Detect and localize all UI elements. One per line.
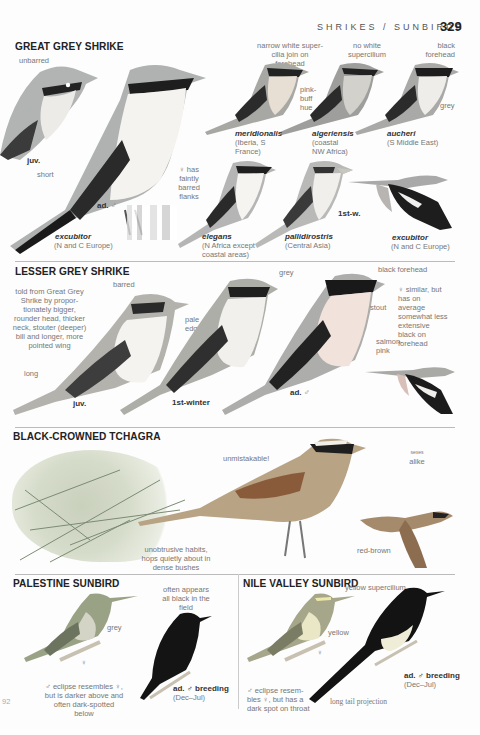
label-lgs-ad-male: ad. ♂ — [290, 388, 310, 397]
note-palestine-eclipse: ♂ eclipse resembles ♀, but is darker abo… — [43, 682, 125, 718]
lesser-grey-shrike-flight-illustration — [365, 362, 465, 417]
section-title-great-grey-shrike: GREAT GREY SHRIKE — [15, 40, 124, 52]
range-pallidirostris: (Central Asia) — [285, 241, 330, 250]
note-red-brown: red-brown — [357, 546, 391, 555]
margin-reference: 92 — [2, 697, 10, 706]
race-algeriensis: algeriensis — [312, 129, 354, 138]
fence-post — [127, 205, 177, 240]
palestine-sunbird-female-illustration — [20, 592, 120, 662]
race-elegans: elegans — [202, 232, 232, 241]
race-pallidirostris: pallidirostris — [285, 232, 333, 241]
note-long-tail: long tail projection — [330, 697, 387, 706]
divider-2 — [15, 427, 455, 428]
nile-breeding-months: (Dec–Jul) — [404, 680, 436, 689]
label-female: ♀ — [81, 658, 87, 667]
male-symbol: ♂ — [304, 388, 310, 397]
note-alike: alike — [403, 457, 431, 466]
race-aucheri: aucheri — [387, 129, 415, 138]
note-short: short — [37, 170, 54, 179]
note-unobtrusive: unobtrusive habits, hops quietly about i… — [141, 545, 211, 572]
section-title-lesser-grey-shrike: LESSER GREY SHRIKE — [15, 265, 130, 277]
divider-3 — [15, 574, 455, 575]
range-aucheri: (S Middle East) — [387, 138, 438, 147]
note-salmon-pink: salmon-pink — [376, 337, 402, 355]
note-often-black: often appears all black in the field — [160, 585, 212, 612]
note-stout: stout — [370, 303, 386, 312]
section-title-palestine-sunbird: PALESTINE SUNBIRD — [13, 577, 120, 589]
label-ad-male: ad. ♂ — [97, 201, 117, 210]
range-algeriensis: (coastal NW Africa) — [312, 138, 350, 156]
range-excubitor-flight: (N and C Europe) — [391, 242, 450, 251]
excubitor-flight-illustration — [348, 172, 458, 237]
note-black-forehead: black forehead — [425, 41, 455, 59]
male-symbol: ♂ — [111, 201, 117, 210]
note-female-similar: ♀ similar, but has on average somewhat l… — [398, 285, 448, 348]
divider-1 — [15, 261, 455, 262]
note-lgs-black-forehead: black forehead — [378, 265, 427, 274]
range-elegans: (N Africa except coastal areas) — [202, 241, 264, 259]
label-palestine-ad-breeding: ad. ♂ breeding — [173, 684, 229, 693]
race-meridionalis: meridionalis — [235, 129, 282, 138]
range-meridionalis: (Iberia, S France) — [235, 138, 273, 156]
note-grey-sunbird: grey — [107, 623, 122, 632]
race-excubitor: excubitor — [55, 232, 91, 241]
vertical-divider — [238, 574, 239, 709]
palestine-breeding-months: (Dec–Jul) — [173, 693, 205, 702]
note-long: long — [24, 369, 38, 378]
ad-label: ad. — [290, 388, 302, 397]
ad-label: ad. — [97, 201, 109, 210]
note-sexes: sexes — [403, 448, 431, 457]
note-no-supercilium: no white supercilium — [345, 41, 389, 59]
note-grey: grey — [440, 101, 455, 110]
tchagra-flight-illustration — [355, 500, 455, 570]
section-title-black-crowned-tchagra: BLACK-CROWNED TCHAGRA — [13, 430, 161, 442]
label-nile-ad-breeding: ad. ♂ breeding — [404, 671, 460, 680]
label-lgs-first-winter: 1st-winter — [172, 398, 210, 407]
page-number: 329 — [440, 19, 462, 34]
note-sexes-alike: sexes alike — [403, 448, 431, 466]
range-excubitor: (N and C Europe) — [54, 241, 113, 250]
label-lgs-juv: juv. — [73, 399, 86, 408]
note-nile-eclipse: ♂ eclipse resem-bles ♀, but has a dark s… — [247, 686, 315, 713]
aucheri-illustration — [355, 60, 460, 135]
race-excubitor-flight: excubitor — [392, 233, 428, 242]
